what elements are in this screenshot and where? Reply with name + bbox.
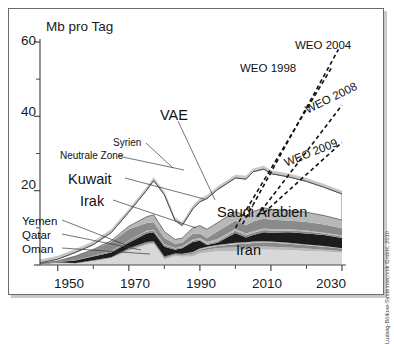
label-qatar: Qatar	[22, 230, 51, 242]
label-yemen: Yemen	[22, 216, 57, 228]
x-tick-2010: 2010	[252, 277, 282, 291]
copyright-credit: Ludwig-Bölkow-Systemtechnik GmbH, 2010	[384, 231, 390, 344]
x-tick-1970: 1970	[120, 277, 150, 291]
label-iran: Iran	[236, 243, 261, 258]
y-tick-20: 20	[21, 178, 36, 192]
y-tick-60: 60	[21, 34, 36, 48]
label-neutrale-zone: Neutrale Zone	[60, 151, 123, 161]
label-oman: Oman	[22, 244, 53, 256]
label-vae: VAE	[160, 108, 188, 123]
y-tick-40: 40	[21, 105, 36, 119]
x-tick-1990: 1990	[186, 277, 216, 291]
x-tick-2030: 2030	[316, 277, 346, 291]
label-syrien: Syrien	[113, 138, 141, 148]
y-axis-title: Mb pro Tag	[46, 20, 113, 34]
label-saudi-arabien: Saudi Arabien	[217, 205, 307, 220]
label-weo-2004: WEO 2004	[295, 40, 351, 52]
x-tick-1950: 1950	[54, 277, 84, 291]
label-weo-1998: WEO 1998	[240, 63, 296, 75]
label-irak: Irak	[80, 194, 104, 209]
label-kuwait: Kuwait	[68, 172, 112, 187]
